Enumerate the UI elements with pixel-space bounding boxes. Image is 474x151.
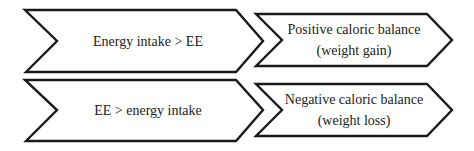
outcome-label-line2: (weight gain) bbox=[316, 43, 391, 59]
row-negative-balance: EE > energy intake Negative caloric bala… bbox=[25, 80, 452, 141]
caloric-balance-diagram: Energy intake > EE Positive caloric bala… bbox=[0, 0, 474, 151]
outcome-label-line1: Negative caloric balance bbox=[285, 92, 423, 107]
outcome-label-line1: Positive caloric balance bbox=[288, 22, 421, 37]
condition-label: EE > energy intake bbox=[94, 103, 202, 118]
row-positive-balance: Energy intake > EE Positive caloric bala… bbox=[25, 10, 452, 72]
condition-label: Energy intake > EE bbox=[93, 34, 203, 49]
outcome-label-line2: (weight loss) bbox=[318, 113, 391, 129]
